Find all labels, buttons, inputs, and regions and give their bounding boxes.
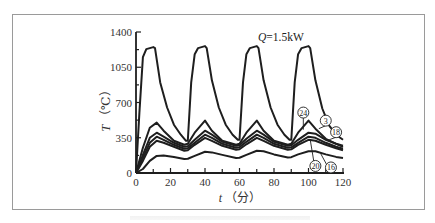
x-tick-label: 100 xyxy=(300,176,317,188)
power-annotation: Q=1.5kW xyxy=(258,31,304,43)
y-axis-title: T （℃） xyxy=(99,84,113,131)
x-axis-title: t （分） xyxy=(219,191,261,205)
circled-label-text: 24 xyxy=(299,109,307,118)
chart-series xyxy=(136,46,343,173)
circled-label-text: 3 xyxy=(324,117,328,126)
y-tick-label: 1400 xyxy=(110,26,133,38)
series-line-heater xyxy=(136,46,343,173)
y-tick-label: 350 xyxy=(116,132,133,144)
figure-caption-cropped xyxy=(130,216,310,220)
y-tick-label: 0 xyxy=(127,167,133,179)
x-tick-label: 40 xyxy=(200,176,212,188)
circled-label-text: 18 xyxy=(332,128,340,137)
y-tick-label: 700 xyxy=(116,97,133,109)
circled-label-text: 20 xyxy=(311,162,319,171)
x-tick-label: 0 xyxy=(133,176,139,188)
x-tick-label: 60 xyxy=(234,176,246,188)
x-tick-label: 120 xyxy=(335,176,352,188)
x-tick-label: 80 xyxy=(269,176,281,188)
x-tick-label: 20 xyxy=(165,176,177,188)
temperature-chart: 035070010501400020406080100120 243182016… xyxy=(0,0,435,223)
circled-label-text: 16 xyxy=(327,163,335,172)
y-tick-label: 1050 xyxy=(110,61,133,73)
